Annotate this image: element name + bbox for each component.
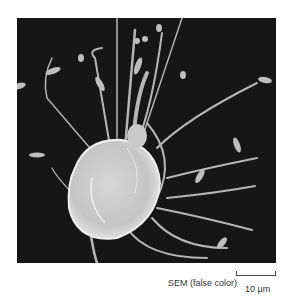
scale-bar: [236, 270, 276, 282]
scale-bar-tick-right: [275, 271, 276, 276]
scale-bar-label: 10 µm: [245, 284, 270, 294]
scale-bar-line: [236, 275, 276, 276]
cell-with-filaments-image: [17, 18, 276, 263]
imaging-caption: SEM (false color): [168, 278, 237, 288]
sem-micrograph: [17, 18, 276, 263]
scale-bar-tick-left: [236, 271, 237, 276]
